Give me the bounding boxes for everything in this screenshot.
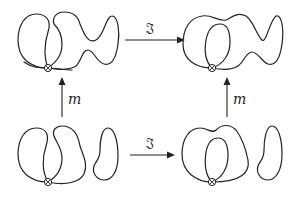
node-bottom-left xyxy=(18,126,118,186)
crossing-marker xyxy=(44,64,51,71)
node-top-right xyxy=(183,14,283,71)
arrow-left-label: m xyxy=(68,91,81,107)
arrow-right-label: m xyxy=(233,91,246,107)
crossing-marker xyxy=(44,178,51,185)
crossing-marker xyxy=(208,178,215,185)
curve-separate-loop xyxy=(93,128,118,180)
node-bottom-right xyxy=(182,126,282,186)
node-top-left xyxy=(18,12,119,72)
commutative-diagram: 𝔍 m m 𝔍 xyxy=(0,0,298,197)
curve-inner-loop xyxy=(205,24,230,68)
arrow-bottom: 𝔍 xyxy=(130,135,175,159)
arrow-right: m xyxy=(224,77,247,117)
arrow-top-label: 𝔍 xyxy=(145,20,154,35)
curve-outer xyxy=(183,14,283,69)
curve-outer xyxy=(182,126,248,183)
curve-separate-loop xyxy=(257,126,282,180)
curve-main-lobe xyxy=(48,12,119,69)
crossing-marker xyxy=(208,64,215,71)
arrow-left: m xyxy=(59,77,82,117)
curve-middle-lobe xyxy=(48,126,86,184)
arrow-bottom-label: 𝔍 xyxy=(145,135,154,150)
curve-left-lobe xyxy=(18,14,49,68)
curve-left-lobe xyxy=(18,128,48,182)
curve-inner-loop xyxy=(205,138,228,182)
arrow-top: 𝔍 xyxy=(125,20,185,44)
